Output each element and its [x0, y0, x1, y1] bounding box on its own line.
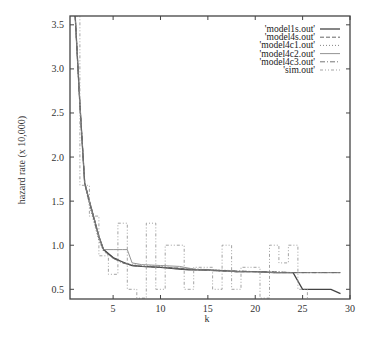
x-axis-label: k — [205, 313, 210, 324]
x-tick-label: 10 — [155, 303, 165, 314]
legend-item: 'sim.out' — [283, 65, 340, 75]
legend-label: 'sim.out' — [283, 65, 315, 75]
legend: 'model1s.out''model4s.out''model4c1.out'… — [260, 24, 340, 75]
x-tick-label: 5 — [111, 303, 116, 314]
x-axis-ticks: 51015202530 — [111, 16, 355, 314]
y-tick-label: 2.5 — [52, 107, 65, 118]
y-tick-label: 1.5 — [52, 196, 65, 207]
hazard-rate-chart: 51015202530 0.51.01.52.02.53.03.5 k haza… — [0, 0, 369, 339]
y-tick-label: 3.0 — [52, 63, 65, 74]
y-tick-label: 3.5 — [52, 19, 65, 30]
x-tick-label: 20 — [250, 303, 260, 314]
x-tick-label: 25 — [298, 303, 308, 314]
x-tick-label: 30 — [345, 303, 355, 314]
y-axis-label: hazard rate (x 10,000) — [16, 116, 28, 204]
y-tick-label: 2.0 — [52, 152, 65, 163]
y-tick-label: 1.0 — [52, 240, 65, 251]
y-tick-label: 0.5 — [52, 284, 65, 295]
